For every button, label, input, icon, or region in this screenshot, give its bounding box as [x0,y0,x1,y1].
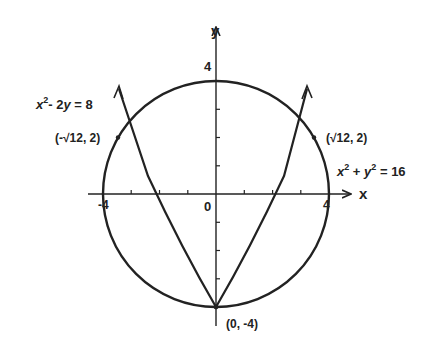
x-axis-label: x [359,185,368,202]
point-bottom [214,305,219,310]
point-left-intersection [116,135,120,139]
graph-canvas: y x 0 -4 4 4 x2- 2y = 8 x2 + y2 = 16 (-√… [0,0,437,358]
parabola-equation-label: x2- 2y = 8 [35,95,93,112]
point-label-bottom: (0, -4) [226,317,258,331]
point-label-left: (-√12, 2) [55,131,100,145]
parabola-left-branch [119,89,216,307]
origin-label: 0 [204,199,211,214]
y-tick-label-4: 4 [204,59,212,74]
point-label-right: (√12, 2) [326,131,367,145]
point-right-intersection [312,135,316,139]
x-tick-label-neg4: -4 [98,198,109,212]
x-tick-label-4: 4 [323,198,330,212]
y-axis-label: y [211,22,220,39]
parabola-right-branch [216,89,307,307]
circle-equation-label: x2 + y2 = 16 [336,162,406,179]
parabola-left-arrow-icon [114,86,123,99]
